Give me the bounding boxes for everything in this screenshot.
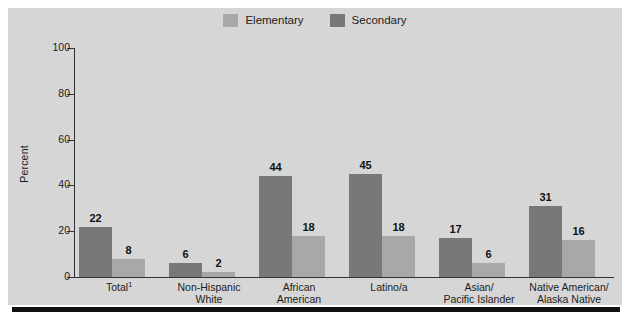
y-tick-label: 60: [58, 133, 70, 145]
bar-group: 3116: [529, 48, 595, 277]
bar-elementary: 8: [112, 259, 145, 277]
bar-value-label: 6: [182, 248, 188, 260]
bar-elementary: 18: [382, 236, 415, 277]
bar-secondary: 17: [439, 238, 472, 277]
bar-elementary: 6: [472, 263, 505, 277]
bar-secondary: 22: [79, 227, 112, 277]
y-tick-label: 20: [58, 224, 70, 236]
bar-value-label: 31: [539, 191, 551, 203]
y-tick-label: 80: [58, 87, 70, 99]
legend-entry-secondary: Secondary: [330, 14, 407, 27]
category-label-line: American: [241, 293, 357, 305]
bar-value-label: 22: [89, 212, 101, 224]
y-axis-title: Percent: [18, 134, 30, 194]
bar-group: 176: [439, 48, 505, 277]
bar-value-label: 45: [359, 159, 371, 171]
bar-elementary: 2: [202, 272, 235, 277]
legend-swatch-elementary: [223, 14, 238, 27]
bar-secondary: 44: [259, 176, 292, 277]
bar-value-label: 6: [485, 248, 491, 260]
legend-label-elementary: Elementary: [245, 15, 303, 27]
bar-elementary: 16: [562, 240, 595, 277]
bar-value-label: 8: [125, 244, 131, 256]
legend-entry-elementary: Elementary: [223, 14, 303, 27]
chart-figure: Elementary Secondary Percent 02040608010…: [8, 8, 622, 305]
bar-value-label: 17: [449, 223, 461, 235]
x-axis-line: [74, 277, 614, 278]
bottom-rule: [12, 307, 620, 312]
bar-value-label: 44: [269, 161, 281, 173]
footnote-marker: 1: [128, 281, 132, 288]
legend-swatch-secondary: [330, 14, 345, 27]
bar-group: 4518: [349, 48, 415, 277]
bar-value-label: 18: [302, 221, 314, 233]
bar-secondary: 31: [529, 206, 562, 277]
bar-group: 62: [169, 48, 235, 277]
y-axis-line: [74, 48, 75, 277]
bar-secondary: 6: [169, 263, 202, 277]
bar-elementary: 18: [292, 236, 325, 277]
bar-group: 4418: [259, 48, 325, 277]
y-tick-label: 100: [52, 41, 70, 53]
plot-area: 020406080100 22862441845181763116 Total1…: [74, 48, 614, 277]
category-label-line: Native American/: [511, 281, 627, 293]
category-label-line: Alaska Native: [511, 293, 627, 305]
y-tick-label: 40: [58, 178, 70, 190]
bar-value-label: 16: [572, 225, 584, 237]
legend-label-secondary: Secondary: [352, 15, 407, 27]
bar-secondary: 45: [349, 174, 382, 277]
bar-group: 228: [79, 48, 145, 277]
chart-legend: Elementary Secondary: [8, 14, 622, 27]
bar-value-label: 18: [392, 221, 404, 233]
bar-value-label: 2: [215, 257, 221, 269]
category-label: Native American/Alaska Native: [511, 281, 627, 305]
